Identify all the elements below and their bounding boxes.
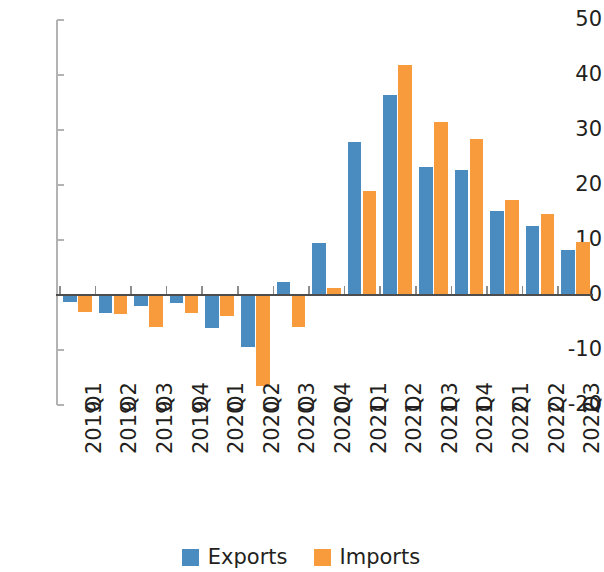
y-axis-tick [57, 129, 64, 131]
bar-imports-2019-q2 [114, 295, 128, 314]
x-axis-label-year: 2019 [119, 401, 140, 454]
legend-item-imports[interactable]: Imports [314, 547, 421, 568]
y-axis-tick-label: 30 [554, 119, 602, 140]
x-axis-label-year: 2022 [582, 401, 603, 454]
x-axis-label-year: 2022 [547, 401, 568, 454]
bar-imports-2022-q3 [576, 242, 590, 295]
bar-exports-2019-q2 [99, 295, 113, 313]
bar-imports-2021-q1 [363, 191, 377, 295]
bar-exports-2020-q4 [312, 243, 326, 295]
y-axis-tick-label: 50 [554, 9, 602, 30]
bar-exports-2019-q3 [134, 295, 148, 306]
bar-imports-2021-q4 [470, 139, 484, 295]
y-axis-spine [56, 20, 58, 405]
x-axis-label-year: 2020 [262, 401, 283, 454]
legend-label-exports: Exports [208, 547, 288, 568]
x-axis-label-year: 2020 [333, 401, 354, 454]
bar-exports-2022-q1 [490, 211, 504, 295]
chart-legend: ExportsImports [0, 543, 602, 572]
bar-exports-2021-q4 [455, 170, 469, 295]
bar-exports-2020-q1 [205, 295, 219, 328]
y-axis-tick [57, 184, 64, 186]
bar-exports-2021-q3 [419, 167, 433, 295]
bar-exports-2022-q2 [526, 226, 540, 295]
bar-exports-2019-q1 [63, 295, 77, 302]
legend-label-imports: Imports [340, 547, 421, 568]
bar-exports-2019-q4 [170, 295, 184, 303]
x-axis-label-year: 2021 [404, 401, 425, 454]
x-axis-zero-line [56, 294, 593, 296]
x-axis-label-year: 2022 [511, 401, 532, 454]
legend-swatch-exports [182, 549, 199, 566]
y-axis-tick-label: -10 [554, 339, 602, 360]
y-axis-tick [57, 404, 64, 406]
x-axis-label-year: 2020 [297, 401, 318, 454]
x-axis-label-year: 2019 [155, 401, 176, 454]
legend-swatch-imports [314, 549, 331, 566]
bar-imports-2020-q1 [220, 295, 234, 316]
x-axis-label-year: 2021 [475, 401, 496, 454]
bar-imports-2019-q3 [149, 295, 163, 327]
x-axis-label-year: 2021 [369, 401, 390, 454]
bar-imports-2022-q1 [505, 200, 519, 295]
x-axis-label-year: 2020 [226, 401, 247, 454]
bar-imports-2022-q2 [541, 214, 555, 295]
bar-imports-2019-q1 [78, 295, 92, 312]
x-axis-label-year: 2019 [84, 401, 105, 454]
x-axis-label-year: 2021 [440, 401, 461, 454]
y-axis-tick [57, 74, 64, 76]
bar-exports-2020-q2 [241, 295, 255, 347]
bar-imports-2020-q2 [256, 295, 270, 386]
bar-exports-2022-q3 [561, 250, 575, 295]
bar-exports-2021-q1 [348, 142, 362, 295]
y-axis-tick-label: 40 [554, 64, 602, 85]
bar-exports-2021-q2 [383, 95, 397, 295]
bar-imports-2021-q2 [398, 65, 412, 295]
y-axis-tick [57, 349, 64, 351]
bar-imports-2020-q3 [292, 295, 306, 327]
y-axis-tick [57, 239, 64, 241]
y-axis-tick-label: 20 [554, 174, 602, 195]
bar-imports-2019-q4 [185, 295, 199, 313]
y-axis-tick [57, 19, 64, 21]
bar-imports-2021-q3 [434, 122, 448, 295]
x-axis-label-year: 2019 [191, 401, 212, 454]
legend-item-exports[interactable]: Exports [182, 547, 288, 568]
